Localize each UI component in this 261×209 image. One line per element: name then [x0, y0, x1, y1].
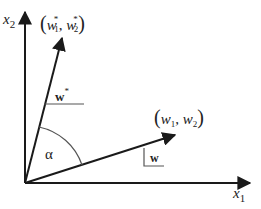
w-point-label: (w1, w2) [154, 106, 204, 129]
x1-axis-label: x1 [232, 185, 245, 204]
w-star-point-label: (w*1, w*2) [40, 12, 85, 35]
angle-alpha-label: α [45, 146, 53, 162]
w-star-vector [25, 38, 62, 183]
w-tag: w [150, 151, 159, 165]
x2-axis-label: x2 [2, 11, 15, 30]
vector-diagram: x2 x1 (w*1, w*2) (w1, w2) w* w α [0, 0, 261, 209]
w-star-tag: w* [55, 86, 69, 104]
